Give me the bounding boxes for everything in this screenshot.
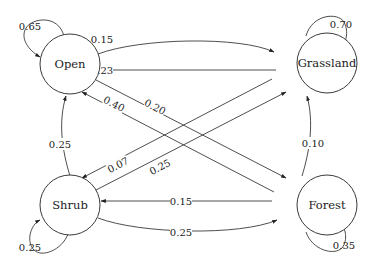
svg-text:0.35: 0.35 <box>333 240 355 251</box>
edge-label-shrub-grassland: 0.25 <box>148 157 173 177</box>
edge-label-grassland-shrub: 0.07 <box>106 155 131 175</box>
svg-text:Open: Open <box>54 57 86 71</box>
edge-label-forest-open: 0.40 <box>102 94 127 114</box>
edge-forest-grassland <box>302 96 311 176</box>
edge-label-shrub-shrub: 0.25 <box>19 242 41 253</box>
state-transition-diagram: 0.65 0.70 0.25 0.35 0.15 0.23 0.20 0.40 … <box>0 0 368 271</box>
svg-text:0.65: 0.65 <box>19 21 41 32</box>
svg-text:Shrub: Shrub <box>52 198 88 212</box>
node-grassland: Grassland <box>297 33 357 93</box>
edge-label-open-grassland: 0.15 <box>91 34 113 45</box>
edge-label-grassland-grassland: 0.70 <box>330 19 352 30</box>
node-shrub: Shrub <box>40 175 100 235</box>
edge-label-forest-shrub: 0.15 <box>170 196 192 207</box>
edge-open-grassland <box>98 41 274 54</box>
edge-shrub-open <box>62 96 70 176</box>
svg-text:0.70: 0.70 <box>330 19 352 30</box>
edge-label-forest-grassland: 0.10 <box>302 138 324 149</box>
svg-text:Forest: Forest <box>308 198 345 212</box>
edge-label-forest-forest: 0.35 <box>333 240 355 251</box>
edge-label-open-open: 0.65 <box>19 21 41 32</box>
svg-text:Grassland: Grassland <box>298 56 357 70</box>
edge-label-shrub-open: 0.25 <box>49 139 71 150</box>
svg-text:0.25: 0.25 <box>19 242 41 253</box>
node-open: Open <box>40 34 100 94</box>
edge-label-open-forest: 0.20 <box>143 97 168 117</box>
node-forest: Forest <box>297 175 357 235</box>
edge-label-shrub-forest: 0.25 <box>170 227 192 238</box>
